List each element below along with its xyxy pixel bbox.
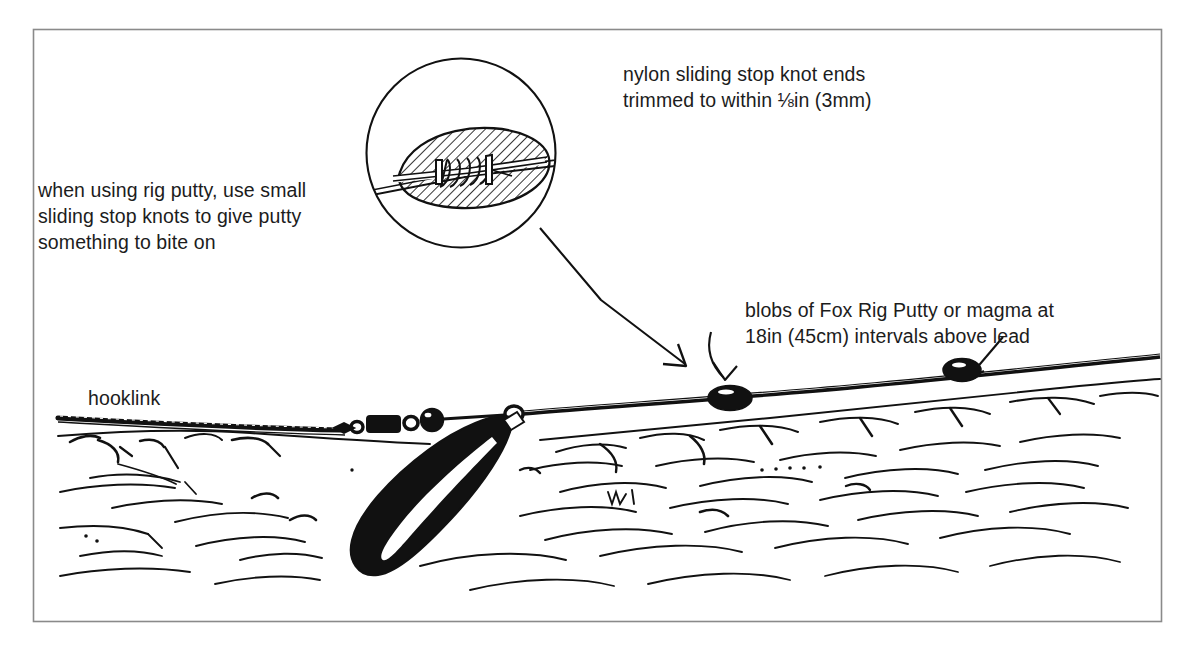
blob-arrow-left [709,332,737,380]
rig-tube-sleeve [367,416,400,432]
putty-blob-left-highlight [718,389,734,394]
label-hooklink: hooklink [88,386,160,412]
annotation-nylon-stop-knot-ends: nylon sliding stop knot ends trimmed to … [623,62,872,114]
large-bead [421,409,444,432]
annotation-putty-blob-intervals: blobs of Fox Rig Putty or magma at 18in … [745,298,1054,350]
callout-circle-group [362,59,572,248]
putty-blob-right-highlight [952,363,966,368]
callout-leader-line [540,228,685,364]
figure-root: nylon sliding stop knot ends trimmed to … [0,0,1195,654]
mainline-right-highlight [523,354,1160,411]
putty-blob-right [943,359,981,382]
putty-blob-left [708,386,752,411]
small-bead [404,417,418,430]
annotation-rig-putty-tip: when using rig putty, use small sliding … [38,178,306,256]
large-bead-highlight [425,413,432,418]
lakebed-texture [58,379,1160,590]
